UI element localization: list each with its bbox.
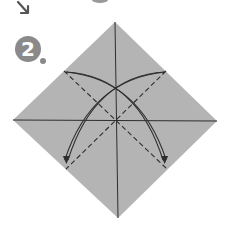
previous-step-shape (92, 0, 108, 3)
step-badge-dot (40, 58, 46, 64)
step-number-badge: 2 (15, 36, 41, 62)
diagram-canvas (0, 0, 226, 225)
origami-diagram: 2 (0, 0, 226, 225)
step-number: 2 (21, 37, 35, 61)
previous-step-arrow-icon (18, 2, 28, 13)
